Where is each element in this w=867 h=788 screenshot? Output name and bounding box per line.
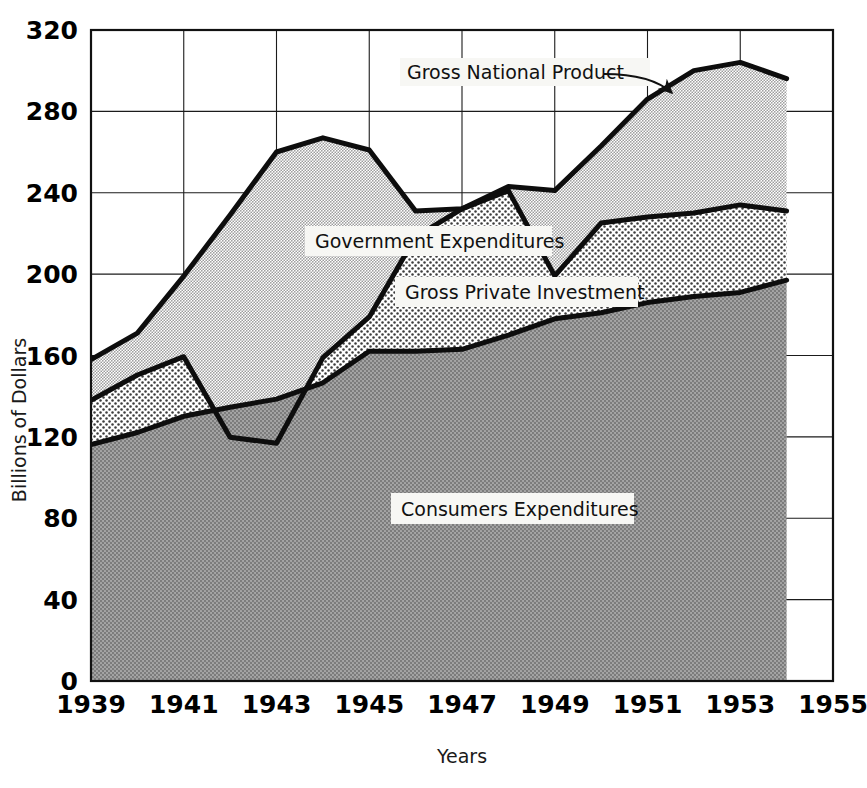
y-tick-320: 320 xyxy=(26,16,78,45)
x-tick-1939: 1939 xyxy=(56,690,126,719)
gross-private-investment-label: Gross Private Investment xyxy=(405,281,644,303)
y-tick-120: 120 xyxy=(26,423,78,452)
inline-label-government-expenditures: Government Expenditures xyxy=(305,226,564,256)
y-tick-40: 40 xyxy=(43,586,78,615)
x-tick-1949: 1949 xyxy=(520,690,590,719)
y-tick-80: 80 xyxy=(43,504,78,533)
chart-root: 320 280 240 200 160 120 80 40 0 1939 194… xyxy=(0,0,867,788)
consumers-expenditures-label: Consumers Expenditures xyxy=(401,498,639,520)
y-axis-tick-labels: 320 280 240 200 160 120 80 40 0 xyxy=(26,16,78,696)
gross-national-product-annotation-text: Gross National Product xyxy=(407,61,624,83)
gnp-stacked-area-chart: 320 280 240 200 160 120 80 40 0 1939 194… xyxy=(0,0,867,788)
y-axis-title: Billions of Dollars xyxy=(8,338,30,502)
x-tick-1955: 1955 xyxy=(798,690,867,719)
y-tick-160: 160 xyxy=(26,342,78,371)
inline-label-consumers-expenditures: Consumers Expenditures xyxy=(391,493,639,524)
x-tick-1943: 1943 xyxy=(242,690,312,719)
x-tick-1947: 1947 xyxy=(427,690,497,719)
x-tick-1953: 1953 xyxy=(705,690,775,719)
government-expenditures-label: Government Expenditures xyxy=(315,230,564,252)
x-tick-1945: 1945 xyxy=(334,690,404,719)
x-axis-title: Years xyxy=(436,745,487,767)
x-tick-1941: 1941 xyxy=(149,690,219,719)
x-tick-1951: 1951 xyxy=(613,690,683,719)
y-tick-200: 200 xyxy=(26,260,78,289)
inline-label-gross-private-investment: Gross Private Investment xyxy=(395,277,644,307)
x-axis-tick-labels: 1939 1941 1943 1945 1947 1949 1951 1953 … xyxy=(56,690,867,719)
y-tick-280: 280 xyxy=(26,97,78,126)
y-tick-240: 240 xyxy=(26,179,78,208)
